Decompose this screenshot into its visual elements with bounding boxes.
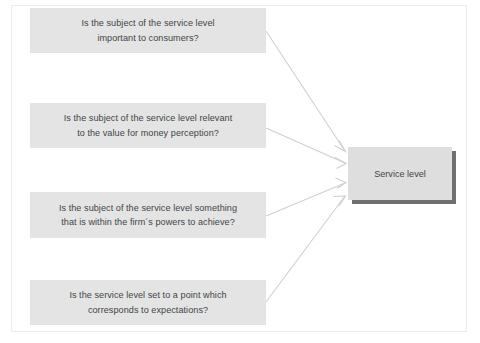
question-box-3-line2: that is within the firm´s powers to achi… xyxy=(61,217,235,227)
question-box-1-text: Is the subject of the service level impo… xyxy=(81,16,214,45)
question-box-3-line1: Is the subject of the service level some… xyxy=(59,203,237,213)
connector-line-q4 xyxy=(266,196,345,302)
question-box-3-text: Is the subject of the service level some… xyxy=(59,201,237,230)
question-box-1-line2: important to consumers? xyxy=(97,33,198,43)
question-box-2: Is the subject of the service level rele… xyxy=(30,103,266,148)
question-box-1-line1: Is the subject of the service level xyxy=(81,18,214,28)
target-box-label: Service level xyxy=(374,169,426,179)
question-box-2-line2: to the value for money perception? xyxy=(77,128,219,138)
target-box-service-level: Service level xyxy=(348,147,452,200)
question-box-4-text: Is the service level set to a point whic… xyxy=(69,288,226,317)
question-box-3: Is the subject of the service level some… xyxy=(30,192,266,238)
question-box-1: Is the subject of the service level impo… xyxy=(30,8,266,53)
diagram-canvas: Is the subject of the service level impo… xyxy=(0,0,480,343)
question-box-4-line1: Is the service level set to a point whic… xyxy=(69,290,226,300)
question-box-4-line2: corresponds to expectations? xyxy=(88,305,208,315)
question-box-4: Is the service level set to a point whic… xyxy=(30,280,266,325)
question-box-2-line1: Is the subject of the service level rele… xyxy=(64,113,233,123)
question-box-2-text: Is the subject of the service level rele… xyxy=(64,111,233,140)
arrowhead-q3 xyxy=(336,178,347,189)
